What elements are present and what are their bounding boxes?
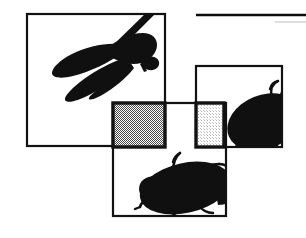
figure-stage — [0, 0, 306, 238]
figure-root: Three overlapping bordered white panels … — [0, 0, 306, 238]
light-gray-square-fill — [196, 103, 224, 147]
dark-gray-square — [113, 103, 165, 147]
dark-gray-square-fill — [113, 103, 165, 147]
insect-composition-svg — [0, 0, 306, 238]
light-gray-square — [196, 103, 224, 147]
